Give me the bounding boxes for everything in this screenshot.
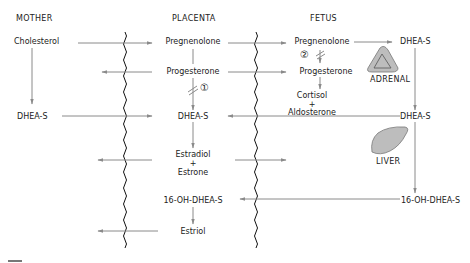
adrenal-label: ADRENAL — [370, 75, 410, 84]
placenta-estradiol: Estradiol — [176, 150, 211, 159]
header-placenta: PLACENTA — [172, 14, 216, 23]
enzyme-2-marker: ② — [300, 50, 309, 59]
placenta-16-oh-dheas: 16-OH-DHEA-S — [164, 196, 223, 205]
adrenal-gland-icon — [368, 46, 399, 72]
fetus-dheas-adrenal: DHEA-S — [400, 37, 431, 46]
fetus-progesterone: Progesterone — [300, 67, 353, 76]
fetus-cortisol: Cortisol — [297, 91, 327, 100]
mother-dheas: DHEA-S — [17, 112, 48, 121]
fetus-16-oh-dheas: 16-OH-DHEA-S — [401, 196, 460, 205]
figure-marker — [8, 260, 22, 262]
header-mother: MOTHER — [16, 14, 53, 23]
placental-fetal-membrane — [255, 32, 258, 248]
mother-cholesterol: Cholesterol — [14, 37, 59, 46]
placenta-estriol: Estriol — [181, 227, 206, 236]
enzyme-1-marker: ① — [200, 83, 209, 92]
placenta-progesterone: Progesterone — [167, 67, 220, 76]
liver-label: LIVER — [376, 157, 400, 166]
placenta-dheas: DHEA-S — [178, 112, 209, 121]
fetus-aldosterone: Aldosterone — [288, 108, 336, 117]
header-fetus: FETUS — [310, 14, 337, 23]
fetus-pregnenolone: Pregnenolone — [295, 37, 350, 46]
placenta-estrone: Estrone — [178, 168, 208, 177]
liver-icon — [372, 127, 408, 154]
fetus-dheas-liver: DHEA-S — [400, 112, 431, 121]
placenta-pregnenolone: Pregnenolone — [166, 37, 221, 46]
placenta-plus: + — [190, 159, 197, 168]
maternal-placental-membrane — [124, 32, 127, 248]
